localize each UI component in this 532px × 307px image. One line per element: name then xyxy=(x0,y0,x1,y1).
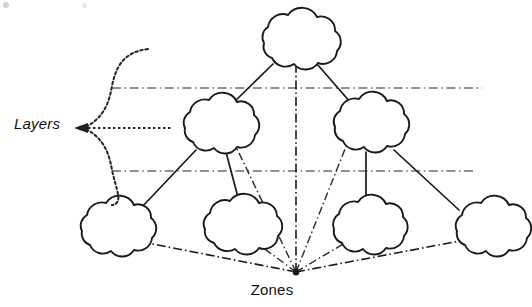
layers-brace-lower-arm xyxy=(86,129,118,205)
cloud-group xyxy=(81,8,532,257)
layers-arrowhead-icon xyxy=(74,123,88,133)
layers-brace-group xyxy=(74,49,172,205)
layer-divider-group xyxy=(112,88,482,171)
bottom-cloud-4 xyxy=(456,196,532,257)
edge-root-to-middle-left xyxy=(232,64,273,104)
middle-left-cloud xyxy=(184,93,260,154)
bottom-cloud-2 xyxy=(204,194,283,255)
diagram-canvas: Layers Zones xyxy=(0,0,532,307)
edge-middle-left-to-bottom-cloud-1 xyxy=(140,150,196,209)
zone-ray-to-middle-right-cloud xyxy=(296,129,353,272)
zone-ray-group xyxy=(122,35,470,275)
diagram-graphics xyxy=(0,0,532,307)
bottom-cloud-3 xyxy=(333,195,408,255)
edge-middle-right-to-bottom-cloud-4 xyxy=(394,150,459,210)
middle-right-cloud xyxy=(334,92,410,153)
layers-label: Layers xyxy=(14,115,60,132)
zones-label: Zones xyxy=(251,281,294,298)
zone-convergence-point xyxy=(293,269,300,276)
top-cloud xyxy=(262,8,340,70)
edge-root-to-middle-right xyxy=(317,64,351,103)
